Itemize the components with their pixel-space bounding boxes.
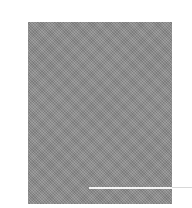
image-canvas xyxy=(0,0,192,208)
horizontal-rule-tail xyxy=(172,187,192,188)
gray-textured-panel xyxy=(28,22,172,204)
horizontal-rule-line xyxy=(89,187,172,189)
